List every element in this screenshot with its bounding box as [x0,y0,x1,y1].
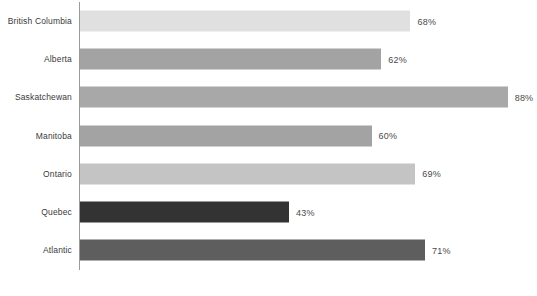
bar-row: Manitoba60% [0,117,537,155]
category-label: Ontario [0,168,72,179]
bar-track: 68% [80,11,537,32]
bar-row: Quebec43% [0,193,537,231]
bar-value-label: 71% [432,245,451,255]
bar-value-label: 62% [388,54,407,64]
bar-row: Atlantic71% [0,231,537,269]
category-label: Alberta [0,54,72,65]
bar-value-label: 69% [422,169,441,179]
plot-area: British Columbia68%Alberta62%Saskatchewa… [0,0,537,272]
bar [80,49,381,70]
bar-row: Alberta62% [0,40,537,78]
bar-value-label: 68% [417,16,436,26]
bar [80,125,372,146]
bar-value-label: 88% [515,92,534,102]
category-label: British Columbia [0,16,72,27]
bar-track: 62% [80,49,537,70]
bar-row: British Columbia68% [0,2,537,40]
bar-track: 60% [80,125,537,146]
bar-row: Saskatchewan88% [0,78,537,116]
bar-track: 88% [80,87,537,108]
bar-value-label: 60% [379,131,398,141]
bar [80,202,289,223]
bar-chart: British Columbia68%Alberta62%Saskatchewa… [0,0,537,296]
bar-row: Ontario69% [0,155,537,193]
bar-track: 43% [80,202,537,223]
category-label: Manitoba [0,130,72,141]
bar-track: 71% [80,240,537,261]
bar [80,11,410,32]
bar [80,87,508,108]
bar-value-label: 43% [296,207,315,217]
category-label: Quebec [0,207,72,218]
bar [80,240,425,261]
chart-footnote [96,287,516,296]
bar-track: 69% [80,163,537,184]
category-label: Atlantic [0,245,72,256]
bar [80,163,415,184]
category-label: Saskatchewan [0,92,72,103]
